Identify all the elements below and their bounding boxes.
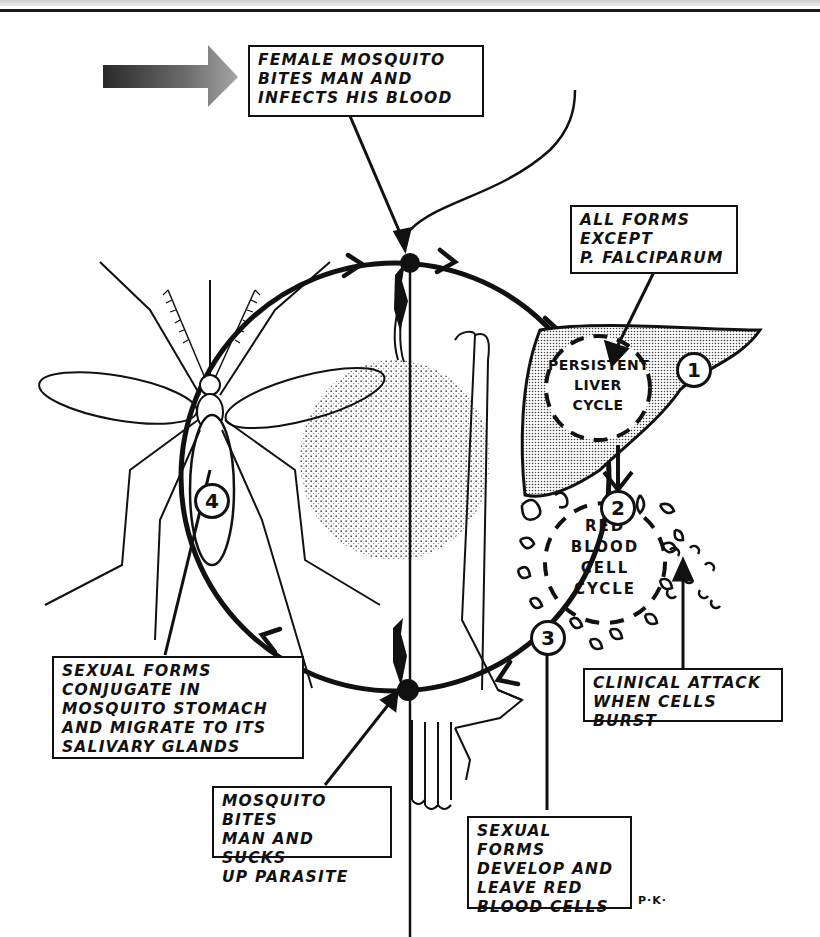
artist-signature: P·K· [638,894,667,907]
direction-arrow-icon [103,45,238,107]
callout-clinical-attack: CLINICAL ATTACK WHEN CELLS BURST [583,668,783,722]
stipple-blotch [300,360,490,560]
red-blood-cell-cycle-label: RED BLOOD CELL CYCLE [565,516,645,600]
step-2-badge: 2 [600,490,636,526]
callout-except-falciparum: ALL FORMS EXCEPT P. FALCIPARUM [570,205,738,274]
callout-infection: FEMALE MOSQUITO BITES MAN AND INFECTS HI… [248,45,484,117]
liver-cycle-label: PERSISTENT LIVER CYCLE [548,355,648,415]
step-3-badge: 3 [530,620,566,656]
life-cycle-artwork [0,0,820,937]
step-4-badge: 4 [194,483,230,519]
clinical-attack-arrow [674,560,692,678]
callout-sexual-forms: SEXUAL FORMS DEVELOP AND LEAVE RED BLOOD… [467,816,632,909]
step-1-badge: 1 [676,352,712,388]
callout-bite-sucks: MOSQUITO BITES MAN AND SUCKS UP PARASITE [212,786,392,858]
callout-mosquito-stage: SEXUAL FORMS CONJUGATE IN MOSQUITO STOMA… [52,656,304,759]
